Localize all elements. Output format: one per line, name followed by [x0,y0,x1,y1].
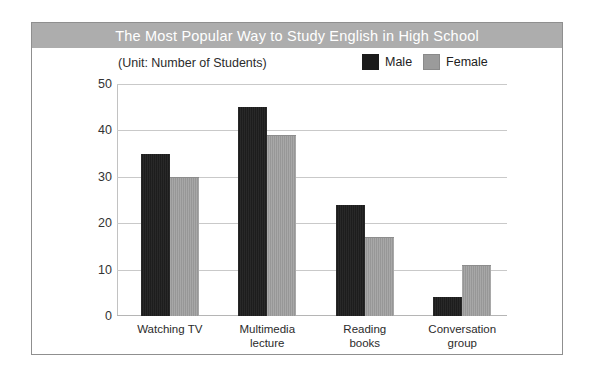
bar-female-4 [462,265,491,316]
bar-group [141,84,199,316]
legend-label-male: Male [385,55,412,69]
x-axis-label: Multimedia lecture [239,322,295,350]
bar-group [433,84,491,316]
bar-male-3 [336,205,365,316]
y-axis: 50 40 30 20 10 0 [82,84,112,316]
bar-group [238,84,296,316]
x-axis-label: Watching TV [137,322,202,336]
unit-label: (Unit: Number of Students) [118,56,267,70]
y-tick: 20 [86,216,112,230]
y-tick: 40 [86,123,112,137]
x-axis-label: Reading books [343,322,386,350]
bar-female-2 [267,135,296,316]
y-tick: 10 [86,263,112,277]
plot-area: 50 40 30 20 10 0 Watching TVMultimedia l… [32,84,562,356]
bar-male-4 [433,297,462,316]
chart-title: The Most Popular Way to Study English in… [115,28,479,44]
bar-male-2 [238,107,267,316]
y-tick: 50 [86,77,112,91]
legend-item-female: Female [423,54,488,70]
y-tick: 30 [86,170,112,184]
grid-area [117,84,507,316]
bar-female-3 [365,237,394,316]
y-tick: 0 [86,309,112,323]
chart-legend: Male Female [362,54,488,70]
legend-item-male: Male [362,54,412,70]
male-swatch-icon [362,54,379,70]
bars-layer [117,84,507,316]
bar-male-1 [141,154,170,316]
legend-label-female: Female [446,55,488,69]
x-axis-labels: Watching TVMultimedia lectureReading boo… [117,322,507,356]
female-swatch-icon [423,54,440,70]
x-axis-label: Conversation group [428,322,496,350]
chart-card: The Most Popular Way to Study English in… [31,22,563,355]
chart-title-bar: The Most Popular Way to Study English in… [32,23,562,48]
bar-female-1 [170,177,199,316]
bar-group [336,84,394,316]
